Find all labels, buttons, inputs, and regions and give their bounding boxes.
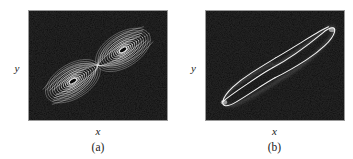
panel-b-plot-area: [205, 10, 345, 121]
figure-two-panel-phase-portraits: y: [0, 0, 353, 159]
panel-b: y: [177, 0, 353, 159]
panel-a-plot-area: [28, 10, 168, 121]
panel-b-caption: (b): [205, 139, 345, 155]
panel-b-x-axis-label: x: [205, 125, 345, 138]
panel-b-y-axis-label: y: [186, 61, 202, 75]
panel-a: y: [0, 0, 177, 159]
panel-a-caption: (a): [28, 139, 168, 155]
panel-a-y-axis-label: y: [9, 61, 25, 75]
panel-a-chaotic-attractor-plot: [29, 11, 167, 120]
panel-b-limit-cycle-plot: [206, 11, 344, 120]
panel-a-x-axis-label: x: [28, 125, 168, 138]
